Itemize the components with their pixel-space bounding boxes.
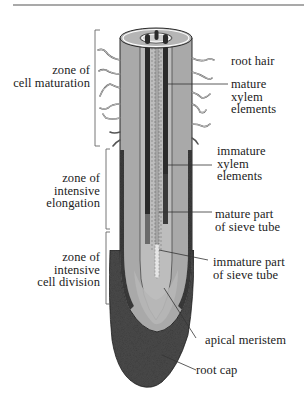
label-root-cap: root cap <box>196 364 237 377</box>
label-immature-xylem: immature xylem elements <box>217 145 266 183</box>
root-hairs-left <box>98 49 120 146</box>
mature-sieve-tube <box>155 44 159 244</box>
root-hairs-right <box>192 58 214 144</box>
label-root-hair: root hair <box>231 55 275 68</box>
bracket-intensive-elongation <box>106 149 110 229</box>
label-zone-cell-maturation: zone of cell maturation <box>13 64 90 89</box>
mature-xylem-right <box>163 44 168 174</box>
mature-xylem-left <box>145 44 150 214</box>
immature-xylem-right <box>163 174 168 224</box>
root-tip-diagram: zone of cell maturation zone of intensiv… <box>0 0 304 406</box>
label-mature-xylem: mature xylem elements <box>231 78 276 116</box>
immature-xylem-left <box>145 214 150 244</box>
label-mature-sieve-tube: mature part of sieve tube <box>215 208 280 233</box>
label-zone-intensive-cell-division: zone of intensive cell division <box>37 251 100 289</box>
label-zone-intensive-elongation: zone of intensive elongation <box>46 172 100 210</box>
immature-sieve-tube <box>155 244 159 278</box>
label-apical-meristem: apical meristem <box>205 334 286 347</box>
bracket-cell-maturation <box>95 30 100 146</box>
label-immature-sieve-tube: immature part of sieve tube <box>213 256 285 281</box>
